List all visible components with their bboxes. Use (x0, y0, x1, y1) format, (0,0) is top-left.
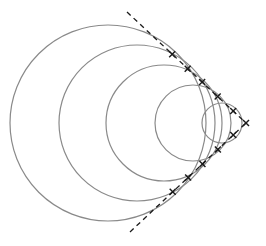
cross-marker-lower-5 (230, 132, 236, 138)
cross-marker-upper-5 (230, 108, 236, 114)
circle-family (10, 25, 242, 221)
circle-4 (155, 85, 231, 161)
tangent-point-markers (169, 51, 249, 195)
circle-1 (10, 25, 206, 221)
circle-3 (106, 65, 222, 181)
circle-2 (59, 45, 215, 201)
diagram-canvas (0, 0, 266, 246)
cross-marker-vertex (243, 120, 249, 126)
